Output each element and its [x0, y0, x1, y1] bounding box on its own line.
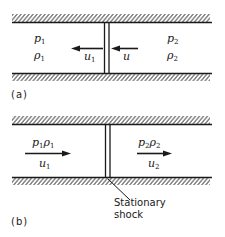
panel-b-u2-label: u2: [148, 158, 160, 173]
panel-a-shock-front: [105, 22, 110, 74]
panel-a-u1-label: u1: [84, 51, 96, 66]
panel-b-u1-label: u1: [39, 158, 51, 173]
panel-a-u-label: u: [123, 51, 130, 62]
panel-a-bottom-wall: [12, 74, 212, 82]
panel-a-right-pressure: p2: [167, 33, 179, 48]
panel-b-left-state: p1ρ1: [32, 137, 54, 152]
stationary-shock-label-line1: Stationary: [114, 197, 166, 208]
panel-a-right-density: ρ2: [167, 50, 178, 65]
panel-a-caption: (a): [11, 89, 28, 100]
stationary-shock-label-line2: shock: [114, 209, 143, 220]
panel-a-left-pressure: p1: [34, 33, 46, 48]
panel-b-top-wall: [12, 116, 212, 125]
panel-b-stationary-shock: [106, 124, 111, 178]
panel-b-caption: (b): [11, 216, 28, 227]
panel-a-top-wall: [12, 14, 212, 23]
panel-a-left-density: ρ1: [34, 50, 45, 65]
panel-b-bottom-wall: [12, 178, 212, 186]
panel-b-right-state: p2ρ2: [138, 137, 160, 152]
